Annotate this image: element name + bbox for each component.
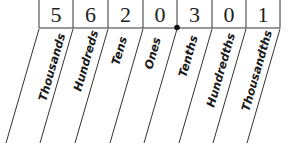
digits: 5 6 2 0 3 0 1 [51,2,269,27]
place-labels: Thousands Hundreds Tens Ones Tenths Hund… [35,28,275,112]
label-hundreds: Hundreds [70,28,101,92]
label-thousandths: Thousandths [238,28,275,112]
digit-tenths: 3 [189,2,200,27]
digit-tens: 2 [120,2,131,27]
place-value-chart: 5 6 2 0 3 0 1 Thousands Hundreds Tens On… [0,0,286,148]
digit-thousandths: 1 [258,2,269,27]
digit-hundredths: 0 [224,2,235,27]
digit-thousands: 5 [51,2,62,27]
label-thousands: Thousands [35,32,68,103]
digit-ones: 0 [155,2,166,27]
label-tenths: Tenths [175,34,200,79]
label-tens: Tens [108,35,130,67]
digit-hundreds: 6 [85,2,96,27]
label-ones: Ones [141,35,163,70]
label-hundredths: Hundredths [203,31,238,109]
